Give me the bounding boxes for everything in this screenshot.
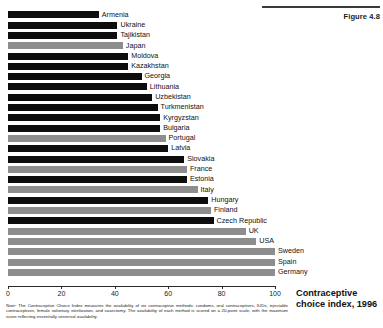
bar-category-label: UK: [249, 226, 259, 236]
bar: [8, 114, 160, 121]
bar: [8, 238, 256, 245]
bar-category-label: Moldova: [131, 51, 158, 61]
bar-row: Sweden: [0, 247, 290, 257]
bar-row: Portugal: [0, 134, 290, 144]
x-axis-tick: [8, 286, 9, 289]
x-axis-tick: [222, 286, 223, 289]
figure-number-label: Figure 4.8: [344, 12, 380, 21]
bar-category-label: Georgia: [145, 71, 171, 81]
bar-category-label: Italy: [201, 185, 214, 195]
bar-category-label: Germany: [278, 267, 308, 277]
bar-row: Armenia: [0, 10, 290, 20]
bar-row: Latvia: [0, 144, 290, 154]
bar-category-label: Bulgaria: [163, 123, 189, 133]
note-prefix: Note:: [6, 303, 16, 308]
bar-category-label: Portugal: [169, 133, 196, 143]
bar-row: Tajikistan: [0, 31, 290, 41]
bar-category-label: Latvia: [171, 143, 190, 153]
bar: [8, 248, 275, 255]
bar: [8, 42, 123, 49]
bar-row: Italy: [0, 185, 290, 195]
bar: [8, 207, 211, 214]
bar: [8, 125, 160, 132]
bar: [8, 104, 158, 111]
bar: [8, 269, 275, 276]
bar: [8, 32, 117, 39]
x-axis-tick-label: 60: [164, 290, 172, 297]
note-text: The Contraceptive Choice Index measures …: [6, 303, 288, 319]
bar-category-label: Sweden: [278, 246, 304, 256]
bar-row: Slovakia: [0, 154, 290, 164]
bar-row: France: [0, 164, 290, 174]
x-axis-tick-label: 0: [6, 290, 10, 297]
bar: [8, 186, 198, 193]
bar-row: Germany: [0, 267, 290, 277]
x-axis-tick: [115, 286, 116, 289]
bar-row: Finland: [0, 206, 290, 216]
bar: [8, 217, 214, 224]
bar: [8, 197, 208, 204]
x-axis-tick: [61, 286, 62, 289]
bar-category-label: Turkmenistan: [161, 102, 204, 112]
figure-note: Note: The Contraceptive Choice Index mea…: [6, 303, 288, 319]
bar-category-label: Hungary: [211, 195, 238, 205]
bar: [8, 53, 128, 60]
bar-row: Ukraine: [0, 20, 290, 30]
bar-category-label: Kazakhstan: [131, 61, 169, 71]
x-axis-tick-label: 20: [57, 290, 65, 297]
x-axis-tick-label: 100: [269, 290, 281, 297]
bar: [8, 176, 187, 183]
bar-category-label: Finland: [214, 205, 238, 215]
bar: [8, 156, 184, 163]
bar: [8, 228, 246, 235]
bar-category-label: Ukraine: [120, 20, 145, 30]
x-axis-tick-label: 40: [111, 290, 119, 297]
bar: [8, 63, 128, 70]
bar-category-label: Uzbekistan: [155, 92, 191, 102]
bar-category-label: Estonia: [190, 174, 214, 184]
bar-category-label: Czech Republic: [217, 216, 267, 226]
bar-row: Kazakhstan: [0, 61, 290, 71]
bar-row: Kyrgyzstan: [0, 113, 290, 123]
bar: [8, 135, 166, 142]
bar-row: USA: [0, 237, 290, 247]
bar-row: Lithuania: [0, 82, 290, 92]
bar-category-label: Lithuania: [150, 82, 179, 92]
x-axis-line: [8, 286, 275, 287]
x-axis-tick-label: 80: [218, 290, 226, 297]
bar: [8, 83, 147, 90]
bar-category-label: Tajikistan: [120, 30, 150, 40]
figure-page: Figure 4.8 ArmeniaUkraineTajikistanJapan…: [0, 0, 383, 328]
header-rule: [262, 6, 380, 8]
bar: [8, 73, 142, 80]
bar: [8, 259, 275, 266]
bar: [8, 11, 99, 18]
bar-category-label: Armenia: [102, 10, 129, 20]
bar-chart-plot-area: ArmeniaUkraineTajikistanJapanMoldovaKaza…: [0, 10, 290, 285]
bar-row: Japan: [0, 41, 290, 51]
bar-row: Uzbekistan: [0, 92, 290, 102]
bar: [8, 145, 168, 152]
bar: [8, 166, 187, 173]
bar-row: UK: [0, 226, 290, 236]
bar-row: Czech Republic: [0, 216, 290, 226]
x-axis-tick: [275, 286, 276, 289]
bar-category-label: Slovakia: [187, 154, 214, 164]
bar-row: Turkmenistan: [0, 103, 290, 113]
bar-row: Estonia: [0, 175, 290, 185]
bar-category-label: Spain: [278, 257, 296, 267]
bar-category-label: Kyrgyzstan: [163, 113, 199, 123]
bar-row: Bulgaria: [0, 123, 290, 133]
bar-row: Georgia: [0, 72, 290, 82]
bar-category-label: France: [190, 164, 212, 174]
figure-caption: Contraceptive choice index, 1996: [296, 288, 382, 309]
x-axis-tick: [168, 286, 169, 289]
bar-row: Spain: [0, 257, 290, 267]
bar: [8, 94, 152, 101]
bar-row: Hungary: [0, 195, 290, 205]
bar-category-label: Japan: [126, 41, 146, 51]
bar: [8, 22, 117, 29]
bar-row: Moldova: [0, 51, 290, 61]
bar-category-label: USA: [259, 236, 274, 246]
